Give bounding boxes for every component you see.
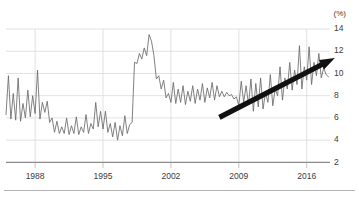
x-tick-label: 1995 — [94, 171, 113, 181]
y-axis-unit-label: (%) — [334, 9, 347, 18]
y-tick-label: 4 — [334, 134, 339, 144]
y-tick-label: 14 — [334, 23, 344, 33]
y-tick-label: 12 — [334, 45, 344, 55]
y-tick-label: 6 — [334, 112, 339, 122]
x-tick-label: 2009 — [229, 171, 248, 181]
y-tick-label: 10 — [334, 68, 344, 78]
x-tick-label: 1988 — [26, 171, 45, 181]
y-tick-label: 8 — [334, 90, 339, 100]
chart-container: 2468101214 19881995200220092016 (%) — [0, 0, 359, 197]
line-chart: 2468101214 19881995200220092016 (%) — [0, 0, 359, 197]
x-tick-label: 2002 — [161, 171, 180, 181]
x-tick-label: 2016 — [297, 171, 316, 181]
y-tick-label: 2 — [334, 157, 339, 167]
